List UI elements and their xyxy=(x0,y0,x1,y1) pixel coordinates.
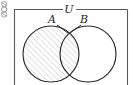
page-corner-icon xyxy=(0,1,11,21)
label-set-b: B xyxy=(79,13,88,26)
leader-line-b xyxy=(70,25,81,33)
venn-diagram-canvas: U A B xyxy=(0,0,133,85)
venn-diagram-figure: U A B xyxy=(0,0,133,85)
label-universe: U xyxy=(64,3,74,16)
label-set-a: A xyxy=(47,13,56,26)
